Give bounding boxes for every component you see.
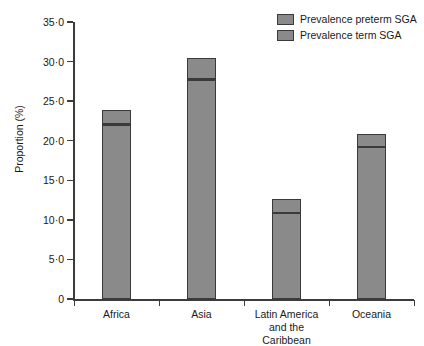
y-axis-tick-label: 25·0 [43,95,64,107]
y-axis-line [73,22,75,300]
y-axis-tick [67,219,73,220]
y-axis-tick [67,298,73,299]
x-axis-tick [74,300,75,306]
bar-segment-divider [103,123,130,125]
x-axis-tick [414,300,415,306]
chart-figure: Prevalence preterm SGA Prevalence term S… [0,0,424,346]
y-axis-tick [67,180,73,181]
x-axis-category-label: Africa [74,308,159,321]
x-axis-category-label: Oceania [329,308,414,321]
bar-africa[interactable] [102,110,131,299]
y-axis-tick [67,140,73,141]
y-axis-tick-label: 35·0 [43,16,64,28]
x-axis-tick [329,300,330,306]
bar-latin-america[interactable] [272,199,301,299]
y-axis-tick-label: 10·0 [43,214,64,226]
bar-segment-divider [358,146,385,148]
bar-segment-divider [188,78,215,80]
y-axis-title: Proportion (%) [13,89,25,189]
y-tick-label-group: 05·010·015·020·025·030·035·0 [0,0,64,346]
x-axis-tick [159,300,160,306]
y-axis-tick-label: 30·0 [43,56,64,68]
x-axis-category-label: Latin America and the Caribbean [244,308,329,346]
y-axis-tick-label: 15·0 [43,174,64,186]
y-axis-tick [67,259,73,260]
y-axis-tick-label: 5·0 [49,253,64,265]
x-axis-tick [244,300,245,306]
y-axis-tick-label: 0 [58,293,64,305]
bar-oceania[interactable] [357,134,386,299]
y-axis-tick [67,21,73,22]
bar-asia[interactable] [187,58,216,299]
bar-segment-divider [273,212,300,214]
y-axis-tick [67,61,73,62]
y-axis-tick [67,100,73,101]
x-axis-category-label: Asia [159,308,244,321]
plot-area: 05·010·015·020·025·030·035·0 Proportion … [0,0,424,346]
y-axis-tick-label: 20·0 [43,135,64,147]
